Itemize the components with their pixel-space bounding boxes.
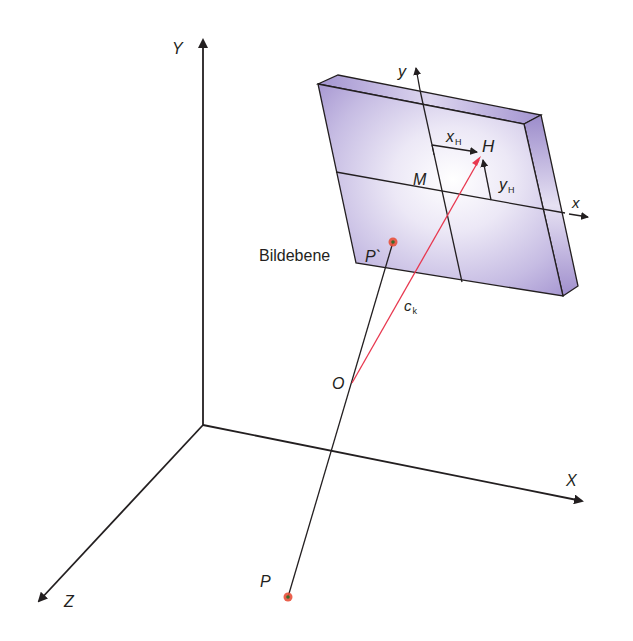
label-image-x: x [571,194,580,211]
image-y-axis-ext [416,68,420,90]
label-c-k: ck [404,297,418,316]
label-p-prime: P` [365,248,381,265]
label-o: O [332,375,344,392]
label-axis-y: Y [172,40,184,57]
axis-z-line [39,425,203,601]
image-plane-plate [318,68,588,296]
label-image-y: y [397,63,407,80]
label-axis-x: X [565,472,578,489]
label-h: H [482,137,495,156]
label-m: M [413,171,427,188]
projection-ray [288,242,393,597]
point-p [284,593,293,602]
label-axis-z: Z [63,593,75,610]
axis-x-line [203,425,582,501]
image-x-axis-ext [569,214,588,217]
point-p-prime [389,238,398,247]
label-p: P [260,573,271,590]
projection-diagram: Y X Z y x xH yH H M P` Bildebene ck O P [0,0,633,641]
label-image-plane: Bildebene [259,247,330,264]
